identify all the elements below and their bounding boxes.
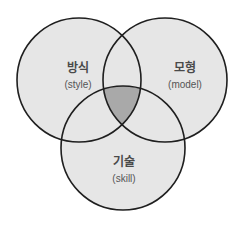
venn-svg: [0, 0, 244, 226]
label-model-en: (model): [145, 78, 225, 91]
label-model: 모형 (model): [145, 61, 225, 91]
label-skill-ko: 기술: [84, 155, 164, 169]
label-skill: 기술 (skill): [84, 155, 164, 185]
label-style: 방식 (style): [38, 61, 118, 91]
label-style-en: (style): [38, 78, 118, 91]
venn-diagram: 방식 (style) 모형 (model) 기술 (skill): [0, 0, 244, 226]
label-style-ko: 방식: [38, 61, 118, 75]
label-skill-en: (skill): [84, 172, 164, 185]
label-model-ko: 모형: [145, 61, 225, 75]
